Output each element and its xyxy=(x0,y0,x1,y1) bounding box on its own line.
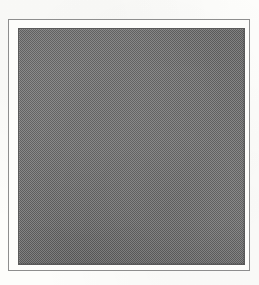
figure-border xyxy=(8,19,250,271)
plate-edge-sheen xyxy=(19,29,244,264)
halftone-dither-texture xyxy=(19,29,244,264)
scanned-page xyxy=(0,0,259,285)
plate-tone-shading xyxy=(19,29,244,264)
image-plate xyxy=(18,28,245,265)
